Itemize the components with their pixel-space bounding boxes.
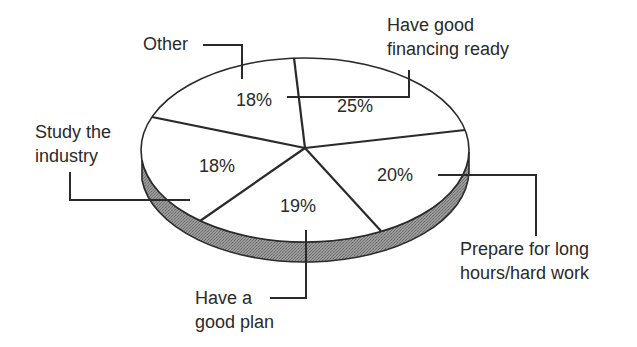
- pct-other: 18%: [236, 90, 272, 110]
- pct-financing: 25%: [337, 96, 373, 116]
- pie-chart: [0, 0, 637, 347]
- label-plan: Have a good plan: [195, 286, 274, 334]
- label-study: Study the industry: [35, 120, 111, 168]
- label-other: Other: [143, 32, 188, 56]
- pct-study: 18%: [199, 156, 235, 176]
- label-prepare: Prepare for long hours/hard work: [460, 237, 589, 285]
- pct-prepare: 20%: [377, 165, 413, 185]
- label-financing: Have good financing ready: [387, 13, 509, 61]
- pct-plan: 19%: [280, 196, 316, 216]
